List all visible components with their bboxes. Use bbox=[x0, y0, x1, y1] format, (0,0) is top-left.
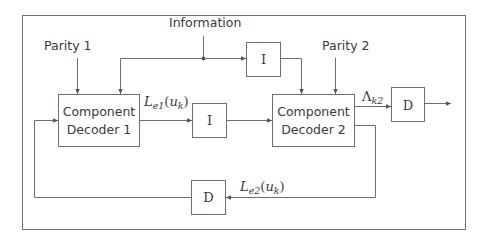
deinterleaver-output-label: D bbox=[403, 98, 413, 113]
turbo-decoder-diagram: Parity 1 Information I Parity 2 Componen… bbox=[0, 0, 482, 237]
parity1-label: Parity 1 bbox=[44, 38, 91, 53]
component-decoder-2 bbox=[273, 95, 355, 147]
interleaver-top-label: I bbox=[261, 52, 266, 67]
deinterleaver-feedback-label: D bbox=[203, 190, 213, 205]
component-decoder-1 bbox=[59, 95, 140, 147]
lambda-k2-label: Λk2 bbox=[361, 89, 383, 106]
decoder2-label-line2: Decoder 2 bbox=[281, 122, 346, 137]
le1-signal-label: Le1(uk) bbox=[143, 94, 189, 111]
decoder1-label-line1: Component bbox=[63, 104, 136, 119]
information-label: Information bbox=[169, 15, 241, 30]
le2-signal-label: Le2(uk) bbox=[239, 179, 285, 196]
interleaver-to-decoder2-arrow bbox=[281, 59, 302, 95]
decoder1-label-line2: Decoder 1 bbox=[67, 122, 132, 137]
decoder2-label-line1: Component bbox=[277, 104, 350, 119]
info-to-decoder1-arrow bbox=[121, 59, 204, 95]
parity2-label: Parity 2 bbox=[322, 38, 369, 53]
interleaver-mid-label: I bbox=[207, 113, 212, 128]
